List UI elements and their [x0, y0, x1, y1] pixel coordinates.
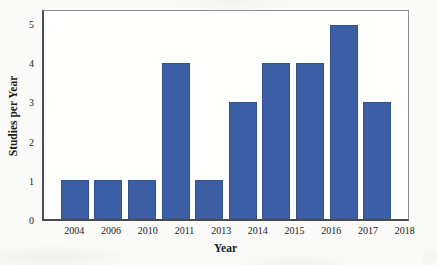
x-tick-2017: 2017 [350, 225, 387, 237]
bar-2010 [128, 180, 156, 219]
bars-container [44, 11, 408, 219]
bar-2016 [296, 63, 324, 219]
bar-2018 [363, 102, 391, 219]
bar-column-2016 [293, 11, 327, 219]
bar-2004 [61, 180, 89, 219]
x-tick-2018: 2018 [386, 225, 423, 237]
bar-column-2014 [226, 11, 260, 219]
bar-2015 [262, 63, 290, 219]
bar-column-2015 [260, 11, 294, 219]
x-tick-2010: 2010 [129, 225, 166, 237]
bar-2006 [94, 180, 122, 219]
x-tick-2006: 2006 [93, 225, 130, 237]
x-tick-labels: 2004200620102011201320142015201620172018 [42, 225, 437, 237]
x-tick-2015: 2015 [276, 225, 313, 237]
bar-2017 [330, 25, 358, 219]
bar-column-2010 [125, 11, 159, 219]
y-tick-1: 1 [0, 177, 34, 187]
y-tick-4: 4 [0, 59, 34, 69]
x-tick-2011: 2011 [166, 225, 203, 237]
plot-area [42, 10, 409, 221]
x-tick-2013: 2013 [203, 225, 240, 237]
y-axis-label: Studies per Year [7, 76, 20, 157]
bar-2011 [162, 63, 190, 219]
x-tick-2016: 2016 [313, 225, 350, 237]
bar-column-2017 [327, 11, 361, 219]
bar-column-2013 [192, 11, 226, 219]
y-tick-0: 0 [0, 216, 34, 226]
bar-2014 [229, 102, 257, 219]
y-tick-5: 5 [0, 20, 34, 30]
x-axis-label: Year [42, 242, 409, 255]
bar-2013 [195, 180, 223, 219]
bar-column-2006 [92, 11, 126, 219]
bar-column-2004 [58, 11, 92, 219]
bar-column-2018 [360, 11, 394, 219]
bar-column-2011 [159, 11, 193, 219]
x-tick-2004: 2004 [56, 225, 93, 237]
x-tick-2014: 2014 [240, 225, 277, 237]
